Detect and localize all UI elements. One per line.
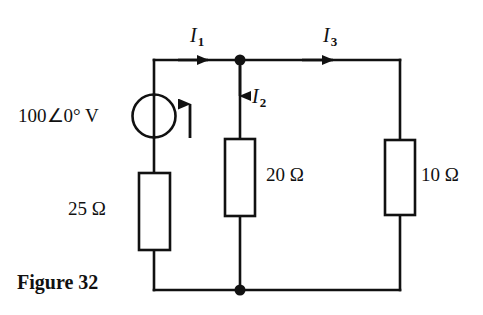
resistor-body-10ohm	[385, 140, 415, 215]
current-subscript-i1: 1	[198, 34, 205, 49]
current-subscript-i3: 3	[331, 34, 338, 49]
current-symbol-i3: I	[323, 24, 330, 46]
resistor-label-10ohm: 10 Ω	[421, 165, 459, 184]
circuit-figure: 100∠0° V 25 Ω 20 Ω 10 Ω I1 I2 I3 Figure …	[0, 0, 483, 315]
circuit-schematic-canvas	[0, 0, 483, 315]
junction-node-top	[235, 55, 246, 66]
current-symbol-i1: I	[190, 24, 197, 46]
voltage-source-label: 100∠0° V	[18, 106, 99, 125]
current-label-i2: I2	[252, 86, 265, 106]
figure-caption: Figure 32	[17, 272, 98, 292]
current-label-i1: I1	[190, 25, 203, 45]
resistor-label-25ohm: 25 Ω	[68, 199, 106, 218]
current-symbol-i2: I	[252, 85, 259, 107]
resistor-body-20ohm	[225, 139, 255, 216]
current-subscript-i2: 2	[260, 95, 267, 110]
resistor-body-25ohm	[139, 173, 170, 250]
resistor-label-20ohm: 20 Ω	[266, 165, 304, 184]
current-label-i3: I3	[323, 25, 336, 45]
junction-node-bottom	[235, 285, 246, 296]
